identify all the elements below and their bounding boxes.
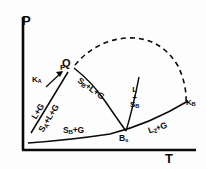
y-axis-label: P: [22, 14, 30, 27]
point-label-q: Q: [62, 58, 70, 69]
point-label-k-a: KA: [32, 76, 42, 85]
bs-sub: s: [125, 136, 128, 143]
point-label-k-b: KB: [186, 99, 196, 108]
diagram-canvas: [0, 0, 206, 169]
lsb-s: SB: [130, 101, 139, 110]
sbg-rest: +G: [73, 125, 84, 135]
region-label-l-plus-sb: L + SB: [130, 86, 139, 110]
region-label-sb-g: SB+G: [63, 126, 84, 135]
k-b-sub: B: [192, 101, 196, 107]
lsb-s-sub: B: [135, 103, 139, 109]
phase-diagram-figure: P T KA P L+G SA+L+G Q SB+L+G L + SB SB+G…: [0, 0, 206, 169]
k-a-sub: A: [38, 78, 42, 84]
x-axis-label: T: [165, 152, 173, 165]
point-label-b-s: Bs: [119, 134, 128, 143]
